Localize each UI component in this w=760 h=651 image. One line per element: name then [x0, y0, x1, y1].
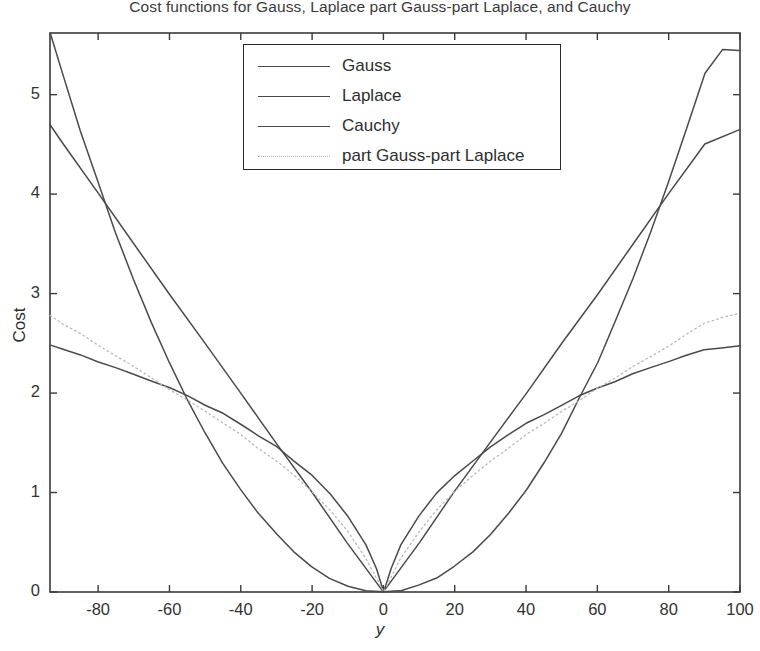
x-tick-label: -40 — [216, 600, 266, 619]
x-tick-label: 80 — [644, 600, 694, 619]
x-tick-label: -20 — [287, 600, 337, 619]
y-tick-label: 2 — [10, 382, 40, 401]
legend-line-sample-icon — [258, 96, 330, 97]
x-tick-label: 20 — [430, 600, 480, 619]
x-tick-label: -80 — [73, 600, 123, 619]
x-tick-label: 40 — [501, 600, 551, 619]
legend-entry: Gauss — [244, 51, 560, 81]
legend-line-sample-icon — [258, 126, 330, 127]
legend-line-sample-icon — [258, 156, 330, 157]
legend-label: Gauss — [342, 56, 391, 76]
legend: GaussLaplaceCauchypart Gauss-part Laplac… — [243, 44, 561, 170]
y-tick-label: 3 — [10, 283, 40, 302]
x-tick-label: 0 — [358, 600, 408, 619]
y-tick-label: 4 — [10, 183, 40, 202]
legend-label: Laplace — [342, 86, 402, 106]
legend-line-sample-icon — [258, 66, 330, 67]
series-line-laplace — [50, 124, 740, 592]
series-line-cauchy — [51, 345, 740, 592]
legend-entry: part Gauss-part Laplace — [244, 141, 560, 171]
series-line-part-gauss-part-laplace — [50, 313, 739, 592]
legend-entry: Cauchy — [244, 111, 560, 141]
y-tick-label: 5 — [10, 84, 40, 103]
x-tick-label: 60 — [572, 600, 622, 619]
y-tick-label: 1 — [10, 482, 40, 501]
x-tick-label: -60 — [144, 600, 194, 619]
figure-canvas: Cost functions for Gauss, Laplace part G… — [0, 0, 760, 651]
legend-label: Cauchy — [342, 116, 400, 136]
x-tick-label: 100 — [715, 600, 760, 619]
legend-entry: Laplace — [244, 81, 560, 111]
legend-label: part Gauss-part Laplace — [342, 146, 524, 166]
y-tick-label: 0 — [10, 581, 40, 600]
